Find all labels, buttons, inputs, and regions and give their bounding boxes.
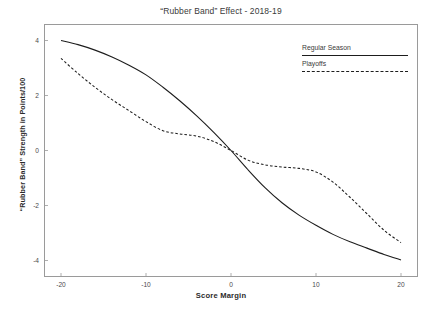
legend-item-playoffs: Playoffs: [302, 60, 410, 76]
legend-swatch-solid-line: [302, 55, 408, 56]
x-tick-label: 10: [301, 281, 331, 288]
legend-item-regular-season: Regular Season: [302, 44, 410, 60]
y-tick-label: 4: [13, 37, 39, 44]
x-axis-label: Score Margin: [0, 291, 442, 300]
x-tick-label: 20: [386, 281, 416, 288]
chart-legend: Regular Season Playoffs: [302, 44, 410, 76]
y-axis-label: “Rubber Band” Strength in Points/100: [18, 55, 27, 235]
x-tick-label: -20: [46, 281, 76, 288]
x-tick-label: 0: [216, 281, 246, 288]
legend-label-playoffs: Playoffs: [302, 60, 326, 67]
chart-container: “Rubber Band” Effect - 2018-19 420-2-4 -…: [0, 0, 442, 315]
x-tick-label: -10: [131, 281, 161, 288]
legend-swatch-dashed-line: [302, 71, 408, 72]
y-tick-label: -4: [13, 257, 39, 264]
legend-label-regular-season: Regular Season: [302, 44, 351, 51]
